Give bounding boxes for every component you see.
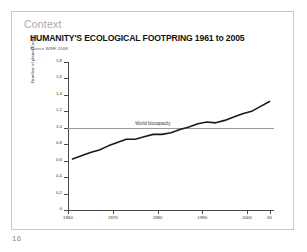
x-tick [270,210,271,214]
y-tick-label: 0 [60,206,62,211]
y-axis-title: Number of planet Earths [30,20,38,98]
x-axis-line [68,210,274,211]
y-tick-label: 0,2 [56,190,62,195]
x-tick [202,210,203,214]
chart-title: HUMANITY'S ECOLOGICAL FOOTPRING 1961 to … [30,33,245,43]
x-tick-label: 2000 [242,215,252,220]
footprint-series-line [68,62,274,210]
x-tick-label: 1990 [197,215,207,220]
slide-canvas: Context HUMANITY'S ECOLOGICAL FOOTPRING … [11,11,294,230]
y-tick-label: 1,6 [56,74,62,79]
x-tick [68,210,69,214]
x-tick-label: 1980 [153,215,163,220]
x-tick [113,210,114,214]
page-number: 16 [12,234,22,243]
y-tick-label: 0,8 [56,140,62,145]
chart-plot-area: Number of planet Earths 00,20,40,60,81,0… [30,56,280,224]
x-tick [247,210,248,214]
y-tick-label: 1,0 [56,124,62,129]
x-tick-label: 1960 [63,215,73,220]
x-tick [158,210,159,214]
x-tick-label: 1970 [108,215,118,220]
y-tick-label: 1,4 [56,91,62,96]
y-tick-label: 0,6 [56,157,62,162]
x-tick-label: 05 [267,215,272,220]
y-tick-label: 1,8 [56,58,62,63]
y-tick-label: 1,2 [56,107,62,112]
chart-inner-plot: 00,20,40,60,81,01,21,41,61,8 19601970198… [68,62,274,210]
y-tick-label: 0,4 [56,173,62,178]
